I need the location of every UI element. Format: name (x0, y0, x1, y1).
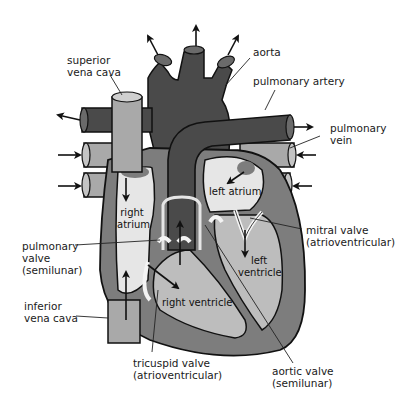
label-line: pulmonary (22, 240, 82, 252)
arrow-icon (228, 36, 238, 55)
arrow-icon (58, 115, 80, 120)
label-line: ventricle (238, 267, 280, 279)
label-line: left (238, 255, 280, 267)
label-line: right (117, 207, 147, 219)
label-line: vein (330, 134, 387, 146)
label-line: (atrioventricular) (306, 236, 395, 248)
label-line: inferior (24, 300, 78, 312)
label-line: pulmonary (330, 122, 387, 134)
label-line: valve (22, 252, 82, 264)
label-line: (semilunar) (272, 377, 334, 389)
heart-diagram (0, 0, 407, 408)
label-line: aortic valve (272, 365, 334, 377)
label-right-atrium: right atrium (117, 207, 147, 231)
label-mitral-valve: mitral valve (atrioventricular) (306, 224, 395, 248)
label-superior-vena-cava: superior vena cava (67, 54, 121, 78)
label-line: atrium (117, 219, 147, 231)
label-line: vena cava (67, 66, 121, 78)
label-aortic-valve: aortic valve (semilunar) (272, 365, 334, 389)
label-line: tricuspid valve (133, 357, 222, 369)
label-inferior-vena-cava: inferior vena cava (24, 300, 78, 324)
label-pulmonary-valve: pulmonary valve (semilunar) (22, 240, 82, 276)
label-line: vena cava (24, 312, 78, 324)
label-line: superior (67, 54, 121, 66)
label-tricuspid-valve: tricuspid valve (atrioventricular) (133, 357, 222, 381)
label-line: (atrioventricular) (133, 369, 222, 381)
superior-vena-cava (112, 92, 142, 172)
label-line: mitral valve (306, 224, 395, 236)
label-line: (semilunar) (22, 264, 82, 276)
arrow-icon (148, 36, 158, 55)
label-pulmonary-artery: pulmonary artery (253, 75, 345, 87)
inferior-vena-cava (108, 300, 140, 343)
label-left-ventricle: left ventricle (238, 255, 280, 279)
label-left-atrium: left atrium (209, 186, 261, 198)
label-right-ventricle: right ventricle (162, 297, 232, 309)
label-pulmonary-vein: pulmonary vein (330, 122, 387, 146)
label-aorta: aorta (253, 46, 281, 58)
